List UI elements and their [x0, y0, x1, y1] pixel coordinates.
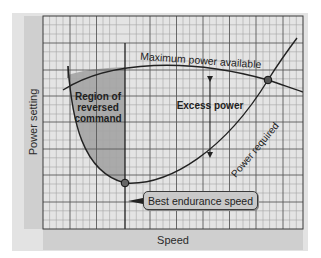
excess-power-label: Excess power [177, 100, 244, 111]
region-label-line2: reversed [77, 102, 119, 113]
region-label-line1: Region of [75, 91, 122, 102]
power-curve-plot: Maximum power available Power required R… [0, 0, 321, 258]
minimum-point [121, 179, 129, 187]
region-label-line3: command [74, 113, 121, 124]
best-endurance-callout: Best endurance speed [143, 191, 258, 210]
intersection-point [264, 76, 272, 84]
